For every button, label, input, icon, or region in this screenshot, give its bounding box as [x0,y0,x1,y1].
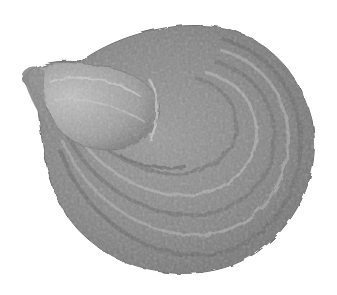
shell-texture [29,25,314,273]
photo-scene [0,0,337,295]
oyster-shell-illustration [0,0,337,295]
